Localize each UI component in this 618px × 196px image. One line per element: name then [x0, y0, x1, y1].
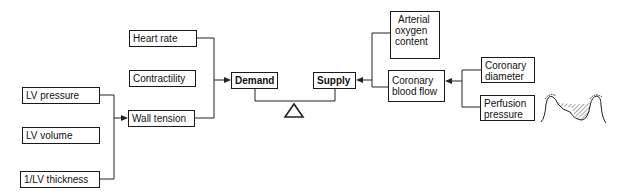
arrow-to-wall-tension [121, 115, 128, 121]
node-lv-volume: LV volume [22, 127, 100, 144]
node-label: 1/LV thickness [24, 174, 88, 185]
node-label-line: diameter [485, 71, 531, 82]
node-heart-rate: Heart rate [129, 30, 197, 47]
node-label: Contractility [133, 73, 185, 84]
arrow-to-supply [356, 77, 363, 83]
node-label-line: Arterial [395, 14, 436, 25]
node-label: Heart rate [133, 33, 177, 44]
connector-lv-pressure [100, 95, 114, 179]
node-label-line: Coronary [485, 60, 531, 71]
node-lv-pressure: LV pressure [22, 87, 100, 104]
arrow-to-demand [224, 77, 231, 83]
connector-coronary-diameter [462, 70, 481, 107]
node-wall-tension: Wall tension [128, 110, 195, 127]
node-supply: Supply [313, 72, 356, 89]
pressure-waveform-icon [541, 95, 606, 123]
node-label: Supply [317, 75, 350, 86]
fulcrum-triangle-icon [285, 104, 303, 117]
node-lv-thickness: 1/LV thickness [20, 171, 100, 188]
node-label-line: blood flow [392, 86, 441, 97]
node-label-line: content [395, 36, 436, 47]
node-contractility: Contractility [129, 70, 196, 87]
node-demand: Demand [231, 72, 278, 89]
node-label-line: pressure [484, 109, 531, 120]
balance-beam [255, 88, 335, 101]
node-coronary-blood-flow: Coronary blood flow [388, 70, 445, 102]
node-label: Demand [235, 75, 274, 86]
node-coronary-diameter: Coronary diameter [481, 57, 535, 83]
node-label-line: Coronary [392, 75, 441, 86]
node-label-line: oxygen [395, 25, 436, 36]
node-perfusion-pressure: Perfusion pressure [480, 95, 535, 121]
myocardial-oxygen-balance-diagram: LV pressure LV volume 1/LV thickness Hea… [0, 0, 618, 196]
node-label-line: Perfusion [484, 98, 531, 109]
node-label: LV volume [26, 130, 73, 141]
arrow-to-coronary-blood-flow [445, 78, 452, 84]
connector-heart-rate [195, 38, 214, 118]
node-label: LV pressure [26, 90, 79, 101]
node-arterial-oxygen-content: Arterial oxygen content [390, 11, 440, 59]
node-label: Wall tension [132, 113, 186, 124]
